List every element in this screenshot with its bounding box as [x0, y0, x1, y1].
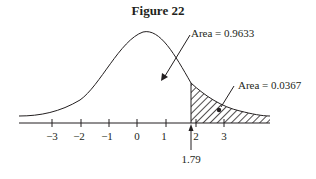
tick-label: −3 [46, 130, 58, 142]
cutoff-label: 1.79 [181, 153, 200, 165]
area-left-label: Area = 0.9633 [191, 27, 254, 39]
tick-label: 0 [134, 130, 140, 142]
area-right-label: Area = 0.0367 [238, 79, 301, 91]
tick-label: 2 [193, 130, 199, 142]
arrow-head-left-area [161, 73, 168, 81]
tick-label: 1 [161, 130, 167, 142]
tick-label: −1 [101, 130, 113, 142]
tick-label: 3 [221, 130, 227, 142]
tick-label: −2 [73, 130, 85, 142]
normal-curve [19, 32, 270, 116]
